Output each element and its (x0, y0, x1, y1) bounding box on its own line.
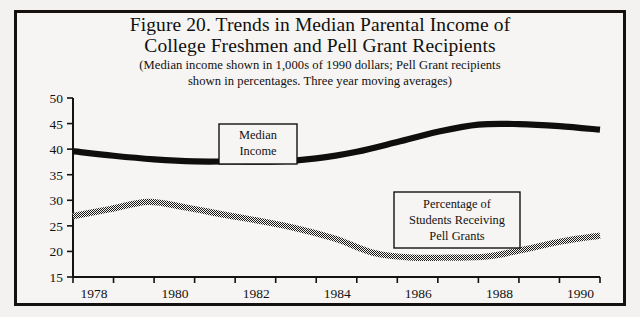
callout-pell-grants: Percentage of Students Receiving Pell Gr… (394, 192, 520, 248)
chart-svg: 1520253035404550 19781980198219841986198… (0, 0, 640, 317)
callout-median-income-line-2: Income (239, 144, 277, 158)
figure-page: Figure 20. Trends in Median Parental Inc… (0, 0, 640, 317)
plot-area: 1520253035404550 19781980198219841986198… (0, 0, 640, 317)
callout-pell-grants-line-3: Pell Grants (429, 229, 485, 243)
callout-pell-grants-line-1: Percentage of (423, 197, 492, 211)
callout-pell-grants-line-2: Students Receiving (409, 213, 505, 227)
callout-median-income-line-1: Median (239, 128, 277, 142)
callout-median-income: Median Income (219, 124, 297, 164)
